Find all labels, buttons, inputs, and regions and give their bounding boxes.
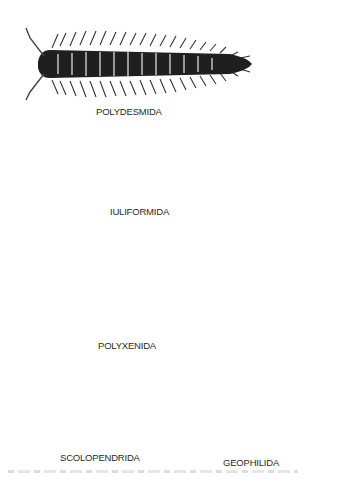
- label-polyxenida: POLYXENIDA: [98, 340, 156, 351]
- label-scolopendrida: SCOLOPENDRIDA: [60, 452, 140, 463]
- label-iuliformida: IULIFORMIDA: [110, 206, 169, 217]
- polydesmida-illustration: [26, 28, 252, 100]
- illustration-canvas: [0, 0, 337, 483]
- label-polydesmida: POLYDESMIDA: [96, 106, 162, 117]
- label-geophilida: GEOPHILIDA: [223, 457, 279, 468]
- faint-caption-line: [8, 470, 298, 473]
